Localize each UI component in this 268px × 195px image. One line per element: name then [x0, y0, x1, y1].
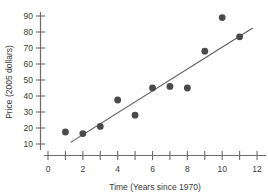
chart-canvas: 102030405060708090024681012Time (Years s…: [0, 0, 268, 195]
y-tick-label: 50: [24, 75, 34, 85]
data-point: [97, 123, 104, 130]
y-tick-label: 90: [24, 11, 34, 21]
x-tick-label: 6: [150, 164, 155, 174]
x-axis-title: Time (Years since 1970): [109, 182, 201, 192]
x-tick-label: 4: [115, 164, 120, 174]
y-tick-label: 10: [24, 139, 34, 149]
y-tick-label: 30: [24, 107, 34, 117]
y-tick-label: 70: [24, 43, 34, 53]
data-point: [236, 33, 243, 40]
y-tick-label: 20: [24, 123, 34, 133]
data-point: [79, 130, 86, 137]
x-tick-label: 12: [252, 164, 262, 174]
x-tick-label: 10: [217, 164, 227, 174]
data-point: [167, 83, 174, 90]
scatter-chart: 102030405060708090024681012Time (Years s…: [0, 0, 268, 195]
y-tick-label: 80: [24, 27, 34, 37]
data-point: [62, 129, 69, 136]
data-point: [114, 97, 121, 104]
data-point: [184, 85, 191, 92]
data-point: [132, 112, 139, 119]
x-tick-label: 8: [185, 164, 190, 174]
x-tick-label: 0: [46, 164, 51, 174]
y-tick-label: 40: [24, 91, 34, 101]
x-tick-label: 2: [80, 164, 85, 174]
y-axis-title: Price (2005 dollars): [4, 45, 14, 119]
data-point: [219, 14, 226, 21]
data-point: [149, 85, 156, 92]
data-point: [201, 48, 208, 55]
y-tick-label: 60: [24, 59, 34, 69]
